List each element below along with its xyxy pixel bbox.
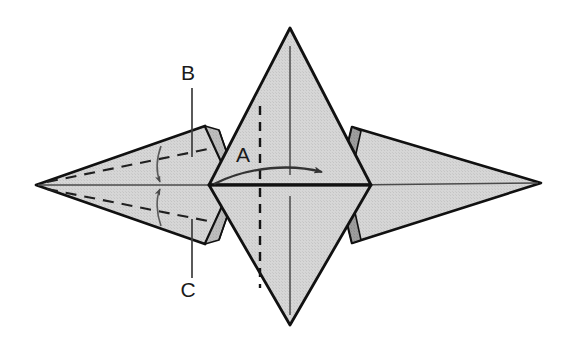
label-b: B xyxy=(181,61,195,84)
origami-diagram-figure: A B C xyxy=(0,0,566,346)
origami-diagram-canvas: A B C xyxy=(0,0,566,346)
label-c: C xyxy=(180,278,195,301)
label-a: A xyxy=(236,143,250,166)
